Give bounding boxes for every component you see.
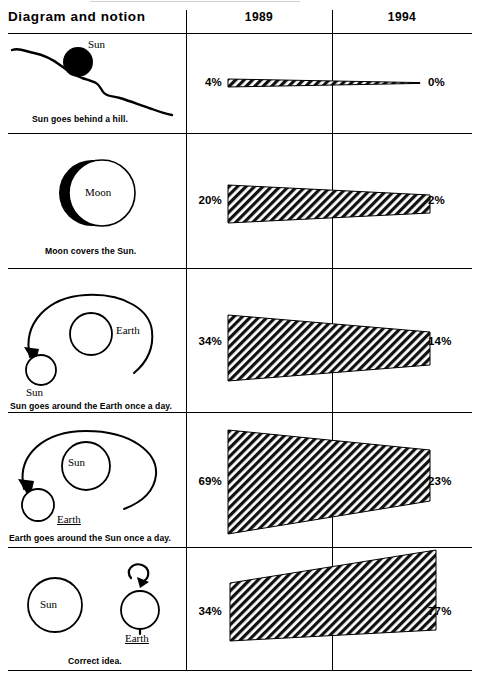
- bar-shape: [228, 315, 430, 381]
- diagram-correct-idea: Sun Earth Correct idea.: [0, 548, 186, 670]
- earth-disc-icon: [22, 489, 54, 521]
- earth-orbits-sun-drawing: [0, 413, 186, 547]
- bar-shape: [228, 430, 430, 534]
- bar-shape: [228, 185, 430, 223]
- figure-sheet: Diagram and notion 1989 1994 Sun Sun goe…: [0, 0, 480, 681]
- row-caption: Earth goes around the Sun once a day.: [9, 533, 171, 543]
- value-1994: 14%: [428, 335, 472, 347]
- diagram-earth-around-sun: Sun Earth Earth goes around the Sun once…: [0, 413, 186, 547]
- row-caption: Moon covers the Sun.: [45, 246, 136, 256]
- diagram-label-sun: Sun: [88, 38, 105, 50]
- diagram-sun-behind-hill: Sun Sun goes behind a hill.: [0, 34, 186, 133]
- sun-disc-icon: [63, 47, 93, 77]
- diagram-label-earth: Earth: [125, 632, 149, 644]
- sun-disc-icon: [26, 355, 56, 385]
- diagram-label-sun: Sun: [40, 598, 57, 610]
- value-1994: 0%: [428, 76, 472, 88]
- diagram-label-sun: Sun: [26, 386, 43, 398]
- earth-disc-icon: [121, 591, 159, 629]
- page-title: Diagram and notion: [8, 9, 146, 24]
- table-row: Earth Sun Sun goes around the Earth once…: [0, 269, 480, 412]
- value-1994: 23%: [428, 475, 472, 487]
- table-row: Sun Earth Correct idea. 34% 77%: [0, 548, 480, 670]
- row-caption: Sun goes behind a hill.: [32, 114, 128, 124]
- bar-shape: [230, 550, 436, 641]
- table-row: Moon Moon covers the Sun. 20% 2%: [0, 134, 480, 268]
- correct-idea-drawing: [0, 548, 186, 670]
- value-1994: 77%: [428, 605, 472, 617]
- table-row: Sun Sun goes behind a hill. 4% 0%: [0, 34, 480, 133]
- row-caption: Sun goes around the Earth once a day.: [10, 401, 172, 411]
- table-header: Diagram and notion 1989 1994: [0, 8, 480, 34]
- diagram-label-earth: Earth: [116, 324, 140, 336]
- diagram-label-sun: Sun: [68, 456, 85, 468]
- value-1994: 2%: [428, 194, 472, 206]
- bar-shape: [228, 79, 420, 87]
- earth-disc-icon: [70, 313, 112, 355]
- diagram-label-moon: Moon: [85, 186, 111, 198]
- column-header-1989: 1989: [186, 10, 332, 24]
- diagram-sun-around-earth: Earth Sun Sun goes around the Earth once…: [0, 269, 186, 412]
- table-row: Sun Earth Earth goes around the Sun once…: [0, 413, 480, 547]
- row-caption: Correct idea.: [68, 656, 122, 666]
- diagram-label-earth: Earth: [57, 513, 81, 525]
- column-header-1994: 1994: [332, 10, 472, 24]
- diagram-moon-covers-sun: Moon Moon covers the Sun.: [0, 134, 186, 268]
